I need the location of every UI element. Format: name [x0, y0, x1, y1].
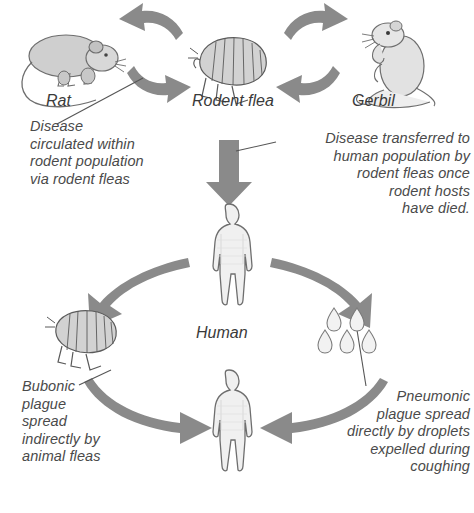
annotation-line: indirectly by — [22, 431, 101, 449]
annotation-line: Disease transferred to — [280, 130, 470, 148]
annotation-line: spread — [22, 413, 101, 431]
flea-illustration-lower — [45, 311, 116, 370]
annotation-line: plague — [22, 396, 101, 414]
annotation-disease-transferred: Disease transferred to human population … — [280, 130, 470, 218]
annotation-line: plague spread — [270, 406, 470, 424]
annotation-line: via rodent fleas — [30, 171, 144, 189]
annotation-disease-circulated: Disease circulated within rodent populat… — [30, 118, 144, 188]
label-rat: Rat — [46, 92, 71, 109]
annotation-line: Pneumonic — [270, 388, 470, 406]
annotation-bubonic-plague: Bubonic plague spread indirectly by anim… — [22, 378, 101, 466]
annotation-line: rodent population — [30, 153, 144, 171]
annotation-line: directly by droplets — [270, 423, 470, 441]
rat-illustration — [22, 35, 126, 107]
label-rodent-flea: Rodent flea — [192, 92, 274, 109]
human-silhouette-upper — [213, 204, 252, 305]
annotation-line: coughing — [270, 458, 470, 476]
annotation-line: expelled during — [270, 441, 470, 459]
plague-cycle-diagram: Rat Rodent flea Gerbil — [0, 0, 474, 513]
annotation-line: animal fleas — [22, 448, 101, 466]
annotation-line: circulated within — [30, 136, 144, 154]
annotation-line: have died. — [280, 200, 470, 218]
annotation-line: rodent fleas once — [280, 165, 470, 183]
droplets-illustration — [318, 308, 376, 353]
label-human: Human — [196, 324, 248, 341]
annotation-line: rodent hosts — [280, 183, 470, 201]
human-silhouette-lower — [213, 370, 252, 471]
label-gerbil: Gerbil — [352, 92, 395, 109]
annotation-pneumonic-plague: Pneumonic plague spread directly by drop… — [270, 388, 470, 476]
annotation-line: human population by — [280, 148, 470, 166]
annotation-line: Bubonic — [22, 378, 101, 396]
annotation-line: Disease — [30, 118, 144, 136]
